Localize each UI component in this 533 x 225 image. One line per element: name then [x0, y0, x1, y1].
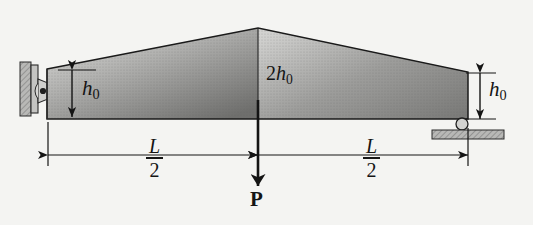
beam-diagram: h0 h0 2h0 L 2 L 2 P — [0, 0, 533, 225]
diagram-canvas — [0, 0, 533, 225]
roller-circle — [456, 118, 468, 130]
wall-support-hatching — [20, 62, 31, 116]
label-span-left: L 2 — [146, 136, 163, 180]
label-load-P: P — [250, 189, 263, 210]
label-2h0-center: 2h0 — [266, 63, 293, 86]
label-h0-right: h0 — [489, 79, 507, 102]
pin-support — [31, 65, 48, 113]
span-left-denominator: 2 — [146, 159, 163, 180]
span-right-denominator: 2 — [363, 159, 380, 180]
span-left-numerator: L — [146, 136, 163, 157]
label-span-right: L 2 — [363, 136, 380, 180]
label-h0-left: h0 — [82, 78, 100, 101]
span-right-numerator: L — [363, 136, 380, 157]
